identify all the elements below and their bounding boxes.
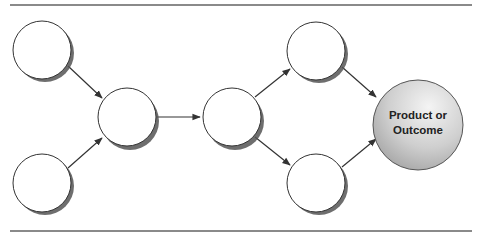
edge-n4-n5 bbox=[255, 69, 290, 97]
edge-n1-n3 bbox=[68, 66, 102, 98]
node-n5 bbox=[287, 22, 345, 80]
outcome-label-line1: Product or bbox=[373, 108, 463, 123]
node-n3 bbox=[98, 88, 156, 146]
edge-n6-outcome bbox=[342, 139, 376, 167]
edge-n5-outcome bbox=[342, 67, 376, 97]
node-n1 bbox=[13, 21, 71, 79]
edge-n2-n3 bbox=[68, 138, 102, 168]
node-n6 bbox=[287, 154, 345, 212]
outcome-label: Product or Outcome bbox=[373, 108, 463, 138]
outcome-label-line2: Outcome bbox=[373, 123, 463, 138]
node-n2 bbox=[13, 154, 71, 212]
node-n4 bbox=[203, 88, 261, 146]
edge-n4-n6 bbox=[255, 137, 290, 165]
